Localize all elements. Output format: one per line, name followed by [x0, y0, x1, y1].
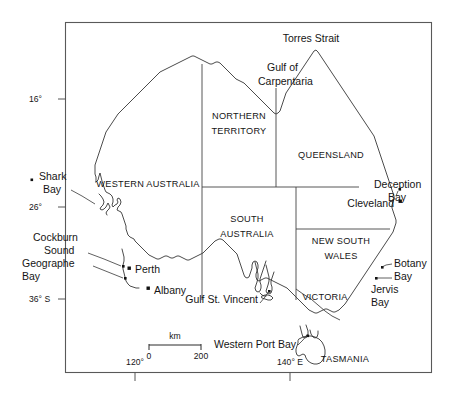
- city-label-cleveland: Cleveland: [347, 197, 394, 209]
- label-geographe-bay-line2: Bay: [22, 270, 41, 282]
- lat-label-26: 26°: [29, 202, 42, 212]
- marker-western-port-bay: [307, 335, 310, 338]
- state-label-victoria: VICTORIA: [302, 292, 348, 302]
- leader-gulf-st-vincent: [260, 291, 269, 303]
- scale-bar-min-label: 0: [147, 351, 152, 361]
- leader-botany-bay: [382, 264, 392, 267]
- leader-geographe-bay: [93, 266, 123, 278]
- label-torres-strait: Torres Strait: [283, 32, 340, 44]
- scale-bar-max-label: 200: [194, 351, 209, 361]
- label-shark-bay-line1: Shark: [39, 170, 67, 182]
- state-label-northern-territory-line2: TERRITORY: [211, 126, 266, 136]
- label-gulf-st-vincent: Gulf St. Vincent: [185, 293, 258, 305]
- shark-bay-coast-detail: [99, 194, 110, 215]
- map-canvas: 16° 26° 36° S 120° 140° E: [0, 0, 456, 405]
- lat-label-36: 36° S: [29, 294, 50, 304]
- state-label-western-australia: WESTERN AUSTRALIA: [96, 179, 200, 189]
- leader-cockburn-sound: [88, 253, 121, 266]
- leader-shark-bay: [71, 190, 95, 204]
- marker-shark-bay: [31, 179, 34, 182]
- label-western-port-bay: Western Port Bay: [214, 338, 297, 350]
- marker-cockburn-sound: [122, 265, 125, 268]
- city-marker-perth: [128, 267, 131, 270]
- label-botany-bay-line2: Bay: [394, 270, 413, 282]
- state-label-south-australia-line1: SOUTH: [230, 214, 263, 224]
- spencer-gulf: [255, 261, 266, 292]
- label-cockburn-sound-line2: Sound: [44, 244, 75, 256]
- label-geographe-bay-line1: Geographe: [22, 257, 75, 269]
- state-label-new-south-wales-line1: NEW SOUTH: [312, 236, 370, 246]
- label-cockburn-sound-line1: Cockburn: [33, 231, 78, 243]
- lon-label-140: 140° E: [277, 357, 303, 367]
- australia-locality-map: 16° 26° 36° S 120° 140° E: [0, 0, 456, 405]
- scale-bar-ruler: [149, 344, 201, 350]
- state-label-new-south-wales-line2: WALES: [324, 251, 357, 261]
- state-label-queensland: QUEENSLAND: [298, 150, 364, 160]
- marker-geographe-bay: [124, 277, 127, 280]
- lat-label-16: 16°: [29, 94, 42, 104]
- city-marker-albany: [147, 287, 150, 290]
- label-deception-bay-line1: Deception: [374, 178, 421, 190]
- state-label-tasmania: TASMANIA: [321, 354, 370, 364]
- city-label-albany: Albany: [154, 284, 187, 296]
- state-label-south-australia-line2: AUSTRALIA: [220, 229, 274, 239]
- label-gulf-of-carpentaria-line2: Carpentaria: [258, 75, 313, 87]
- label-gulf-of-carpentaria-line1: Gulf of: [267, 61, 298, 73]
- label-jervis-bay-line2: Bay: [371, 296, 390, 308]
- label-botany-bay-line1: Botany: [394, 257, 427, 269]
- label-shark-bay-line2: Bay: [43, 183, 62, 195]
- city-label-perth: Perth: [135, 263, 160, 275]
- label-jervis-bay-line1: Jervis: [371, 283, 398, 295]
- lon-label-120: 120°: [126, 357, 144, 367]
- scale-bar-unit-label: km: [169, 331, 180, 341]
- yorke-peninsula-tip: [260, 293, 266, 296]
- state-label-northern-territory-line1: NORTHERN: [212, 111, 266, 121]
